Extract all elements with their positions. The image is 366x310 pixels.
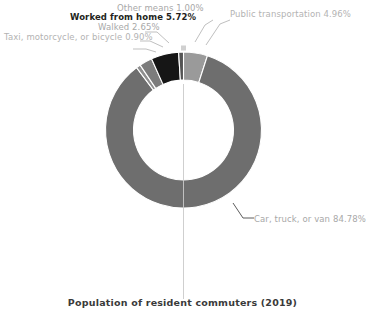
chart-title: Population of resident commuters (2019) [0, 297, 365, 308]
slice-label-walked: Walked 2.65% [98, 22, 160, 32]
slice-label-taxi-motorcycle-bicycle: Taxi, motorcycle, or bicycle 0.90% [4, 32, 153, 42]
leader-car-truck-van [233, 203, 254, 218]
slice-label-worked-from-home: Worked from home 5.72% [70, 12, 196, 22]
center-leader-marker [181, 46, 186, 51]
leader-taxi [133, 49, 156, 52]
slice-label-public-transportation: Public transportation 4.96% [230, 9, 351, 19]
leader-public-transportation [206, 20, 230, 45]
slice-label-car-truck-van: Car, truck, or van 84.78% [254, 214, 366, 224]
